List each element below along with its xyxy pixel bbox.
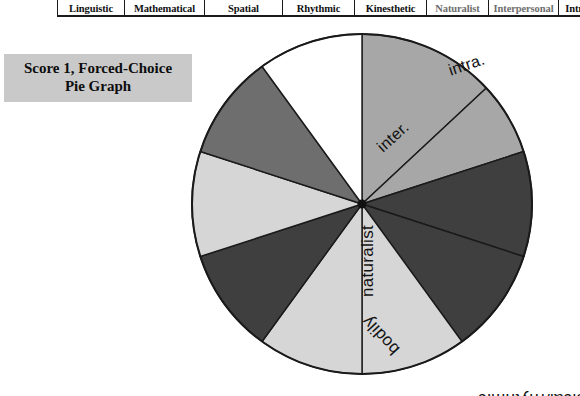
pie-center-dot — [358, 200, 367, 209]
pie-label-musical-rhythmic: musical/rhythmic — [478, 389, 580, 396]
header-cell-rhythmic: Rhythmic — [283, 0, 355, 16]
header-cell-intrapersonal: Intrapersonal — [559, 0, 580, 16]
header-cell-linguistic: Linguistic — [57, 0, 125, 16]
intelligence-types-header-table: LinguisticMathematicalSpatialRhythmicKin… — [57, 0, 580, 17]
header-cell-mathematical: Mathematical — [125, 0, 205, 16]
chart-title-box: Score 1, Forced-Choice Pie Graph — [4, 54, 192, 102]
header-cell-spatial: Spatial — [205, 0, 283, 16]
header-cell-interpersonal: Interpersonal — [489, 0, 559, 16]
chart-title-line-2: Pie Graph — [65, 78, 131, 96]
chart-title-line-1: Score 1, Forced-Choice — [24, 60, 172, 78]
header-cell-kinesthetic: Kinesthetic — [355, 0, 427, 16]
header-cell-naturalist: Naturalist — [427, 0, 489, 16]
pie-chart: intra. verbal/linguistic logical/mathema… — [190, 32, 534, 376]
pie-label-naturalist: naturalist — [358, 225, 378, 297]
